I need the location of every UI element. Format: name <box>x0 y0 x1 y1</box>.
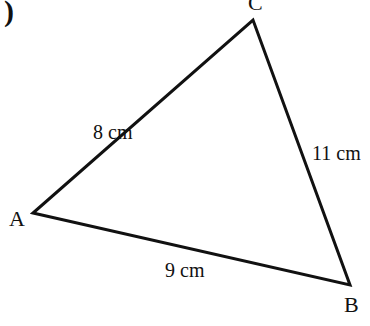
triangle-outline <box>33 20 350 285</box>
vertex-label-c: C <box>248 0 263 14</box>
vertex-label-b: B <box>344 294 359 316</box>
side-label-ac: 8 cm <box>93 122 132 142</box>
side-label-cb: 11 cm <box>312 143 361 163</box>
side-label-ab: 9 cm <box>165 260 204 280</box>
part-marker: ) <box>4 0 14 26</box>
vertex-label-a: A <box>9 208 25 230</box>
triangle-diagram: ) C A B 8 cm 11 cm 9 cm <box>0 0 370 326</box>
